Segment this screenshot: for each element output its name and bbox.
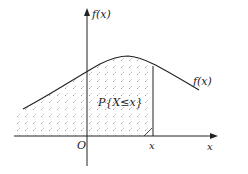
- x-marker-label: x: [149, 140, 155, 151]
- cdf-diagram: f(x) O x x f(x) P{X≤x}: [0, 0, 248, 174]
- x-axis-label: x: [207, 141, 213, 152]
- origin-label: O: [77, 139, 86, 152]
- x-axis-arrow-icon: [210, 133, 218, 139]
- area-label: P{X≤x}: [97, 96, 143, 109]
- y-axis-arrow-icon: [84, 8, 90, 16]
- shaded-probability-area: [14, 40, 154, 136]
- y-axis-label: f(x): [91, 8, 111, 21]
- curve-label: f(x): [192, 75, 212, 88]
